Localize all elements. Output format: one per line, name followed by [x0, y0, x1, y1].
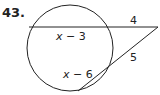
- label-secant-internal: x − 6: [62, 68, 93, 81]
- label-chord-internal: x − 3: [55, 30, 86, 43]
- secant-line-bottom: [78, 27, 158, 91]
- label-secant-external: 5: [130, 51, 137, 64]
- problem-number: 43.: [2, 5, 25, 20]
- secant-diagram: 43. x − 3 4 5 x − 6: [0, 0, 160, 95]
- label-chord-external: 4: [130, 14, 137, 27]
